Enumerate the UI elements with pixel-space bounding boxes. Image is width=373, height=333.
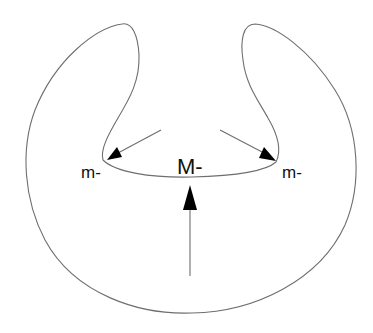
right-arrow-shaft [220, 130, 264, 153]
left-arrow-head [107, 147, 122, 160]
right-arrow-head [259, 147, 276, 161]
center-arrow-head [183, 185, 197, 210]
left-m-minus-label: m- [81, 164, 101, 181]
center-M-minus-label: M- [177, 156, 203, 178]
left-arrow-shaft [118, 130, 161, 153]
right-m-minus-label: m- [282, 164, 302, 181]
